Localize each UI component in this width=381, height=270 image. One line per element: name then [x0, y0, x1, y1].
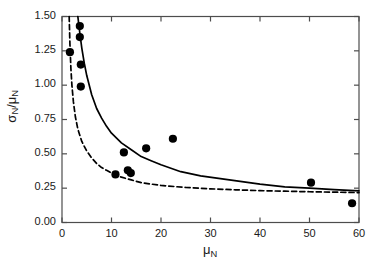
y-axis-label-mu: μ: [4, 97, 19, 105]
x-axis-label: μN: [170, 242, 250, 259]
y-tick-label: 0.50: [16, 146, 56, 158]
curve-series: [69, 17, 359, 193]
data-point: [120, 148, 128, 156]
y-tick-label: 0.00: [16, 215, 56, 227]
figure: 0.000.250.500.751.001.251.50 01020304050…: [0, 0, 381, 270]
dashed-curve: [69, 17, 359, 193]
y-tick-label: 0.25: [16, 180, 56, 192]
x-tick-label: 40: [240, 227, 280, 239]
axis-ticks: [62, 17, 359, 223]
data-point: [307, 179, 315, 187]
x-tick-label: 30: [191, 227, 231, 239]
x-tick-label: 50: [290, 227, 330, 239]
y-axis-label: σN/μN: [4, 70, 21, 142]
y-tick-label: 1.25: [16, 43, 56, 55]
data-points: [66, 22, 356, 207]
y-tick-label: 0.75: [16, 112, 56, 124]
y-axis-label-sigma-sub: N: [10, 108, 20, 115]
data-point: [76, 22, 84, 30]
x-tick-label: 0: [42, 227, 82, 239]
data-point: [66, 48, 74, 56]
data-point: [77, 60, 85, 68]
y-axis-label-mu-sub: N: [10, 90, 20, 97]
data-point: [111, 170, 119, 178]
x-tick-label: 10: [92, 227, 132, 239]
x-tick-label: 60: [339, 227, 379, 239]
data-point: [77, 82, 85, 90]
data-point: [76, 33, 84, 41]
data-point: [127, 169, 135, 177]
plot-frame: [62, 17, 359, 223]
y-tick-label: 1.50: [16, 9, 56, 21]
data-point: [348, 199, 356, 207]
x-axis-label-mu-sub: N: [210, 249, 217, 259]
data-point: [169, 135, 177, 143]
data-point: [142, 144, 150, 152]
y-axis-label-slash: /: [4, 104, 19, 108]
y-axis-label-sigma: σ: [4, 115, 19, 123]
y-tick-label: 1.00: [16, 77, 56, 89]
solid-curve: [78, 17, 359, 191]
x-tick-label: 20: [141, 227, 181, 239]
